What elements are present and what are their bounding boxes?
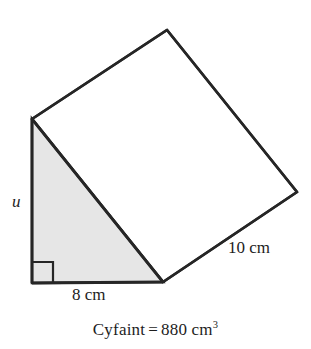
edge-base	[32, 282, 163, 283]
caption-unit-exponent: 3	[213, 319, 218, 330]
caption-quantity-label: Cyfaint	[93, 320, 145, 339]
caption-value: 880	[161, 320, 187, 339]
depth-length-label: 10 cm	[228, 239, 270, 256]
prism-diagram-svg	[0, 0, 311, 349]
caption-equals-sign: =	[148, 320, 158, 339]
caption-unit: cm	[192, 320, 213, 339]
prism-figure: u 8 cm 10 cm Cyfaint=880 cm3	[0, 0, 311, 349]
height-label: u	[12, 193, 21, 210]
volume-caption: Cyfaint=880 cm3	[0, 320, 311, 340]
base-length-label: 8 cm	[72, 286, 106, 303]
